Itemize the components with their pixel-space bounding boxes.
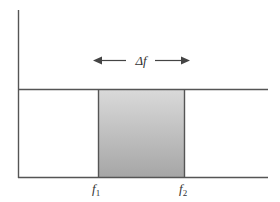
f2-label: f2 [179,181,187,198]
left-arrow-icon [93,57,126,65]
f1-label: f1 [92,181,100,198]
bandpass-diagram: Δf f1 f2 [0,0,280,202]
bandwidth-label: Δf [134,53,149,68]
shaded-band [99,89,185,177]
right-arrow-icon [155,57,190,65]
